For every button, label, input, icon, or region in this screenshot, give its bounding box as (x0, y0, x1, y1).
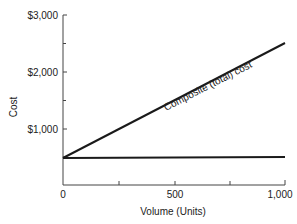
x-tick-label-500: 500 (167, 189, 184, 200)
x-ticks (119, 180, 285, 185)
cost-volume-chart: $3,000 $2,000 $1,000 0 500 1,000 Volume … (0, 0, 297, 224)
fixed-cost-line (63, 157, 285, 158)
x-tick-label-0: 0 (60, 189, 66, 200)
y-tick-label-3000: $3,000 (27, 10, 58, 21)
y-axis-label: Cost (8, 96, 19, 117)
y-tick-label-2000: $2,000 (27, 67, 58, 78)
x-tick-label-1000: 1,000 (267, 189, 292, 200)
y-ticks (63, 15, 67, 157)
composite-cost-annotation: Composite (total) cost (162, 59, 254, 113)
y-tick-label-1000: $1,000 (27, 124, 58, 135)
x-axis-label: Volume (Units) (140, 206, 206, 217)
